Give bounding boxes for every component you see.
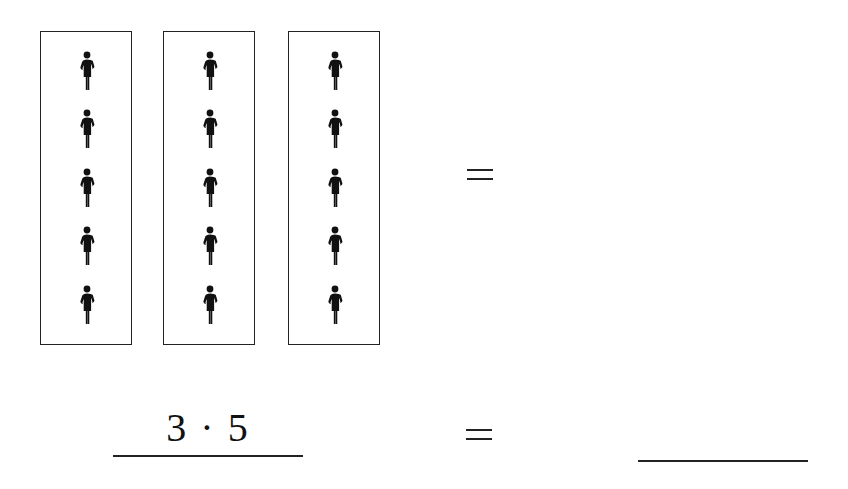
person-icon xyxy=(200,51,220,91)
person-icon xyxy=(325,168,345,208)
multiplication-expression: 3 · 5 xyxy=(113,405,303,451)
person-icon xyxy=(77,226,97,266)
person-icon xyxy=(200,168,220,208)
group-box xyxy=(288,31,380,345)
person-icon xyxy=(77,109,97,149)
person-icon xyxy=(200,226,220,266)
person-icon xyxy=(325,51,345,91)
person-icon xyxy=(325,109,345,149)
person-icon xyxy=(325,285,345,325)
group-box xyxy=(40,31,132,345)
person-icon xyxy=(325,226,345,266)
answer-blank[interactable] xyxy=(638,420,808,460)
equals-sign-top xyxy=(467,169,493,183)
person-icon xyxy=(77,168,97,208)
person-icon xyxy=(200,285,220,325)
group-box xyxy=(163,31,255,345)
answer-underline xyxy=(638,460,808,462)
equals-sign-bottom xyxy=(466,429,492,443)
expression-underline xyxy=(113,455,303,457)
person-icon xyxy=(200,109,220,149)
person-icon xyxy=(77,285,97,325)
person-icon xyxy=(77,51,97,91)
